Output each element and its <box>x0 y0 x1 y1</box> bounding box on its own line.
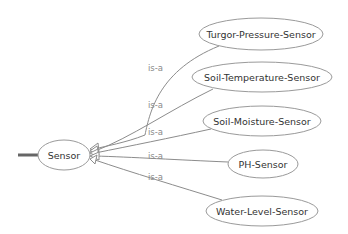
edge-label: is-a <box>148 127 163 137</box>
node-soil-temperature-sensor[interactable]: Soil-Temperature-Sensor <box>192 62 332 92</box>
edge-label: is-a <box>148 100 163 110</box>
class-diagram: is-a is-a is-a is-a is-a Sensor Turgor-P… <box>0 0 348 234</box>
node-label: Sensor <box>48 150 81 161</box>
node-water-level-sensor[interactable]: Water-Level-Sensor <box>206 196 318 226</box>
node-label: Soil-Moisture-Sensor <box>213 116 311 127</box>
edge-label: is-a <box>148 63 163 73</box>
edge-label: is-a <box>148 151 163 161</box>
edge-labels: is-a is-a is-a is-a is-a <box>148 63 163 182</box>
node-ph-sensor[interactable]: PH-Sensor <box>228 150 298 178</box>
edge-soiltemp-to-sensor[interactable] <box>95 89 213 151</box>
node-sensor[interactable]: Sensor <box>38 140 90 170</box>
node-label: Soil-Temperature-Sensor <box>204 72 320 83</box>
node-label: Turgor-Pressure-Sensor <box>205 29 315 40</box>
node-label: Water-Level-Sensor <box>216 206 308 217</box>
edge-label: is-a <box>148 172 163 182</box>
node-soil-moisture-sensor[interactable]: Soil-Moisture-Sensor <box>203 106 321 136</box>
node-label: PH-Sensor <box>239 159 288 170</box>
node-turgor-pressure-sensor[interactable]: Turgor-Pressure-Sensor <box>199 18 323 50</box>
